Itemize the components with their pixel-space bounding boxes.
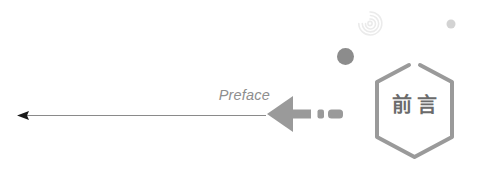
thick-arrow-bar bbox=[291, 110, 311, 119]
light-dot-decoration bbox=[447, 20, 456, 29]
preface-banner: Preface 前言 bbox=[0, 0, 485, 171]
thin-left-arrow bbox=[17, 111, 266, 120]
concentric-rings-decoration bbox=[359, 12, 382, 35]
preface-label-cn: 前言 bbox=[372, 93, 457, 117]
thick-arrow-dash bbox=[328, 110, 343, 119]
thick-arrow-head bbox=[267, 96, 293, 132]
thick-left-arrow bbox=[267, 96, 343, 132]
ring-core bbox=[368, 21, 372, 25]
thick-arrow-dot bbox=[318, 110, 325, 119]
preface-label-en: Preface bbox=[200, 86, 270, 104]
dark-dot-decoration bbox=[337, 48, 354, 65]
ring-inner bbox=[365, 19, 375, 29]
